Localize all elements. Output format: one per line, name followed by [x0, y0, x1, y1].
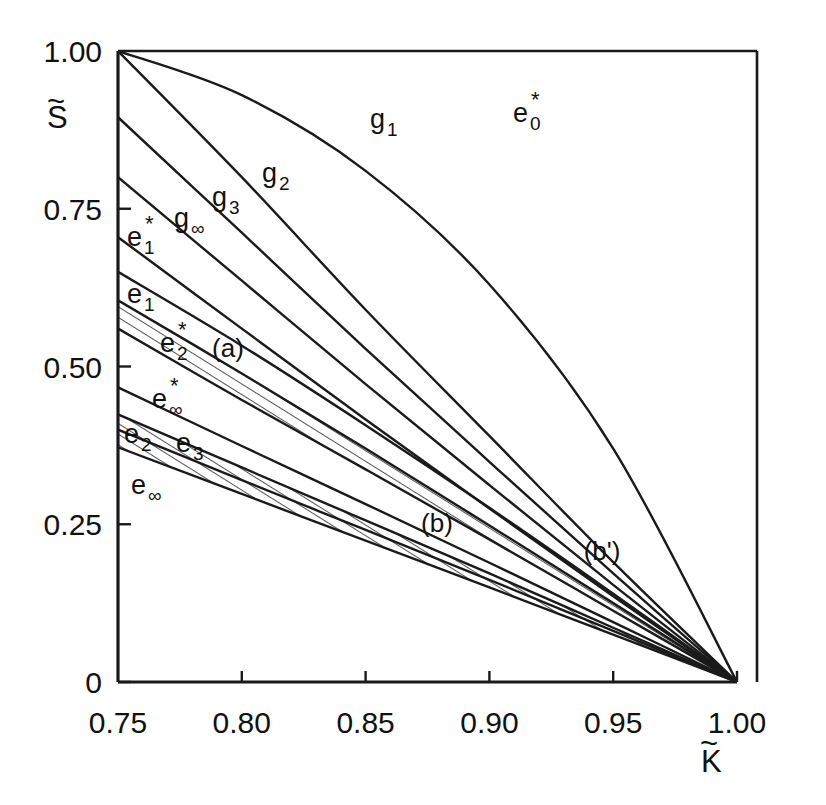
curve-label-base: e [127, 222, 142, 252]
curve-label-base: g [262, 158, 277, 188]
curve-label-subscript: 1 [144, 294, 155, 315]
curve-e2star [118, 329, 737, 682]
y-tick-label-3: 0.75 [44, 193, 102, 226]
curve-label-subscript: 1 [144, 237, 155, 258]
x-axis-title-tilde: ~ [700, 726, 718, 761]
region-label-bp: (b') [584, 536, 621, 566]
curve-label-subscript: 2 [141, 434, 152, 455]
curve-label-superscript: * [531, 87, 540, 112]
curve-label-base: g [212, 182, 227, 212]
curve-label-base: e [124, 419, 139, 449]
curve-label-g1: g1 [370, 104, 398, 140]
y-tick-label-1: 0.25 [44, 508, 102, 541]
curve-label-subscript: 2 [177, 343, 188, 364]
curve-label-base: e [152, 384, 167, 414]
y-axis-title-tilde: ~ [47, 84, 65, 119]
phase-diagram-chart: 0.750.800.850.900.951.00 00.250.500.751.… [0, 0, 826, 805]
x-tick-label-4: 0.95 [584, 706, 642, 739]
x-axis-tick-labels: 0.750.800.850.900.951.00 [89, 706, 766, 739]
curve-label-e-inf: e∞ [131, 470, 162, 506]
region-label-a: (a) [212, 333, 244, 363]
shaded-region-a [118, 300, 737, 682]
curve-label-e-inf-star: e∞* [152, 373, 183, 420]
curve-label-subscript: 3 [193, 443, 204, 464]
curve-label-g2: g2 [262, 158, 290, 194]
x-axis-ticks [242, 671, 737, 682]
curve-label-superscript: * [178, 317, 187, 342]
curve-label-e0star: e0* [513, 87, 541, 134]
curve-label-base: g [370, 104, 385, 134]
curve-g3 [118, 177, 737, 682]
shaded-regions-group [118, 300, 737, 682]
curve-label-e2star: e2* [160, 317, 188, 364]
curve-label-base: g [174, 203, 189, 233]
curve-label-subscript: 2 [279, 173, 290, 194]
y-tick-label-2: 0.50 [44, 351, 102, 384]
x-tick-label-3: 0.90 [460, 706, 518, 739]
x-tick-label-1: 0.80 [213, 706, 271, 739]
curve-label-subscript: 0 [530, 113, 541, 134]
curve-label-e1star: e1* [127, 211, 155, 258]
curve-label-subscript: ∞ [148, 485, 162, 506]
x-tick-label-2: 0.85 [336, 706, 394, 739]
x-tick-label-0: 0.75 [89, 706, 147, 739]
y-tick-label-4: 1.00 [44, 35, 102, 68]
curve-label-superscript: * [145, 211, 154, 236]
curve-label-subscript: ∞ [169, 399, 183, 420]
curve-label-base: e [160, 328, 175, 358]
curve-label-g3: g3 [212, 182, 240, 218]
curve-label-base: e [131, 470, 146, 500]
y-axis-title: S ~ [47, 84, 68, 135]
curve-e2 [118, 414, 737, 682]
curve-label-subscript: 3 [229, 197, 240, 218]
region-label-b: (b) [421, 508, 453, 538]
curve-label-superscript: * [170, 373, 179, 398]
figure-root: 0.750.800.850.900.951.00 00.250.500.751.… [0, 0, 826, 805]
curve-e-inf [118, 447, 737, 682]
curve-label-base: e [176, 428, 191, 458]
curve-label-subscript: 1 [387, 119, 398, 140]
curve-label-base: e [127, 279, 142, 309]
curve-label-base: e [513, 98, 528, 128]
curve-label-g-inf: g∞ [174, 203, 205, 239]
curve-label-subscript: ∞ [191, 218, 205, 239]
y-tick-label-0: 0 [85, 666, 102, 699]
curve-g2 [118, 117, 737, 682]
